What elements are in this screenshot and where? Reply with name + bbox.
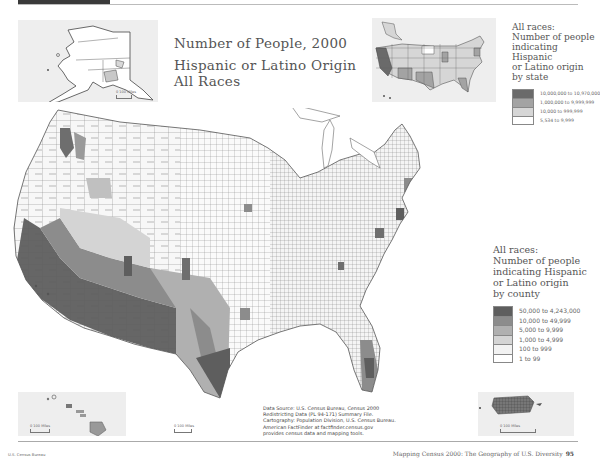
conus-scale-bar: 0 100 Miles [174,424,194,433]
state-legend-row: 10,000,000 to 10,970,000 [512,89,600,98]
county-legend-title-2: Number of people [493,255,587,266]
state-legend-label: 10,000,000 to 10,970,000 [540,91,600,96]
puerto-rico-scale-bar: 0 100 Miles [500,424,536,433]
county-legend: All races: Number of people indicating H… [493,244,587,363]
county-legend-title-5: by county [493,288,587,299]
county-legend-row: 1,000 to 4,999 [493,335,587,345]
legend-swatch [493,335,513,345]
conus-scale-label: 0 100 Miles [174,424,194,428]
map-title-block: Number of People, 2000 Hispanic or Latin… [174,35,356,89]
alaska-inset: 0 100 Miles [18,20,158,102]
county-legend-label: 5,000 to 9,999 [519,326,563,333]
county-legend-row: 50,000 to 4,243,000 [493,306,587,316]
hawaii-inset: 0 100 Miles [18,392,126,436]
footer-publication-title: Mapping Census 2000: The Geography of U.… [393,450,563,457]
state-legend-row: 1,000,000 to 9,999,999 [512,98,600,107]
county-legend-row: 1 to 99 [493,354,587,364]
legend-swatch [512,89,534,98]
footer-publisher: U.S. Census Bureau [8,452,45,457]
legend-swatch [493,306,513,316]
state-inset [372,18,496,102]
state-legend-title-4: or Latino origin [512,62,600,72]
state-legend-title-5: by state [512,72,600,82]
footer-rule [18,441,578,442]
source-line: Cartography: Population Division, U.S. C… [263,417,396,423]
county-legend-label: 1 to 99 [519,355,540,362]
state-legend-label: 1,000,000 to 9,999,999 [540,100,594,105]
state-legend-title-2: Number of people [512,32,600,42]
map-subtitle-races: All Races [174,73,356,89]
state-map [372,18,496,102]
county-legend-label: 100 to 999 [519,345,552,352]
county-legend-title-3: indicating Hispanic [493,266,587,277]
state-legend-title-3: indicating Hispanic [512,42,600,62]
county-legend-title-4: or Latino origin [493,277,587,288]
county-legend-row: 10,000 to 49,999 [493,316,587,326]
alaska-map [18,20,158,102]
legend-swatch [493,354,513,364]
county-legend-row: 5,000 to 9,999 [493,325,587,335]
alaska-scale-bar: 0 100 Miles [116,90,136,99]
lake-michigan [322,120,334,168]
state-legend-title-1: All races: [512,22,600,32]
county-legend-title-1: All races: [493,244,587,255]
legend-swatch [512,98,534,107]
map-subtitle: Hispanic or Latino Origin [174,57,356,73]
county-legend-label: 10,000 to 49,999 [519,317,571,324]
legend-swatch [493,325,513,335]
puerto-rico-inset: 0 100 Miles [478,392,574,436]
puerto-rico-scale-label: 0 100 Miles [500,424,520,428]
data-source-note: Data Source: U.S. Census Bureau, Census … [263,405,396,436]
page-header-bar [0,0,596,5]
footer-publication: Mapping Census 2000: The Geography of U.… [393,450,574,457]
county-legend-label: 1,000 to 4,999 [519,336,563,343]
county-legend-row: 100 to 999 [493,344,587,354]
hawaii-scale-label: 0 100 Miles [30,424,50,428]
legend-swatch [493,316,513,326]
hawaii-scale-bar: 0 100 Miles [30,424,50,433]
alaska-scale-label: 0 100 Miles [116,90,136,94]
page-number: 95 [566,450,574,457]
lake-superior [290,108,340,122]
legend-swatch [493,344,513,354]
header-rule [18,4,578,5]
map-title: Number of People, 2000 [174,35,356,51]
source-line: provides census data and mapping tools. [263,430,396,436]
county-legend-label: 50,000 to 4,243,000 [519,307,580,314]
